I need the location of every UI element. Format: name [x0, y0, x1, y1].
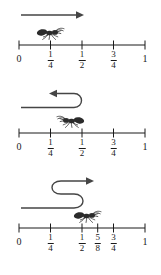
tick-label-5-8: 5 8	[94, 233, 101, 253]
tick-label-1: 1	[143, 138, 148, 152]
u-turn-left-arrow	[21, 90, 82, 108]
panel-2-tick-labels: 0 1 4 1 2 3 4 1	[0, 138, 161, 164]
fraction-three-quarters: 3 4	[110, 138, 117, 158]
number-line-panel-1: 0 1 4 1 2 3 4 1	[0, 0, 161, 92]
fraction-one-quarter: 1 4	[47, 233, 54, 253]
fraction-one-quarter: 1 4	[47, 138, 54, 158]
panel-3-tick-labels: 0 1 4 1 2 5 8 3	[0, 233, 161, 259]
tick-label-1: 1	[143, 233, 148, 247]
fraction-one-half: 1 2	[79, 50, 86, 70]
ant-icon	[73, 211, 101, 223]
number-line-panel-2: 0 1 4 1 2 3 4 1	[0, 88, 161, 180]
tick-label-1-4: 1 4	[47, 50, 54, 70]
tick-label-1-2: 1 2	[79, 50, 86, 70]
tick-label-3-4: 3 4	[110, 233, 117, 253]
tick-label-1-2: 1 2	[79, 138, 86, 158]
panel-1-graphics	[0, 0, 161, 92]
s-curve-right-arrow	[21, 177, 94, 208]
number-line-panel-3: 0 1 4 1 2 5 8 3	[0, 176, 161, 275]
tick-label-0: 0	[17, 138, 22, 152]
fraction-one-half: 1 2	[79, 138, 86, 158]
tick-label-0: 0	[17, 50, 22, 64]
panel-2-graphics	[0, 88, 161, 180]
fraction-one-half: 1 2	[79, 233, 86, 253]
fraction-five-eighths: 5 8	[94, 233, 101, 253]
fraction-three-quarters: 3 4	[110, 233, 117, 253]
fraction-three-quarters: 3 4	[110, 50, 117, 70]
fraction-one-quarter: 1 4	[47, 50, 54, 70]
tick-label-1: 1	[143, 50, 148, 64]
tick-label-3-4: 3 4	[110, 50, 117, 70]
ant-icon	[36, 28, 64, 40]
tick-label-1-4: 1 4	[47, 233, 54, 253]
ant-icon	[57, 116, 85, 128]
tick-label-0: 0	[17, 233, 22, 247]
tick-label-1-4: 1 4	[47, 138, 54, 158]
tick-label-1-2: 1 2	[79, 233, 86, 253]
straight-right-arrow	[21, 11, 84, 19]
panel-3-graphics	[0, 176, 161, 275]
tick-label-3-4: 3 4	[110, 138, 117, 158]
panel-1-tick-labels: 0 1 4 1 2 3 4 1	[0, 50, 161, 76]
